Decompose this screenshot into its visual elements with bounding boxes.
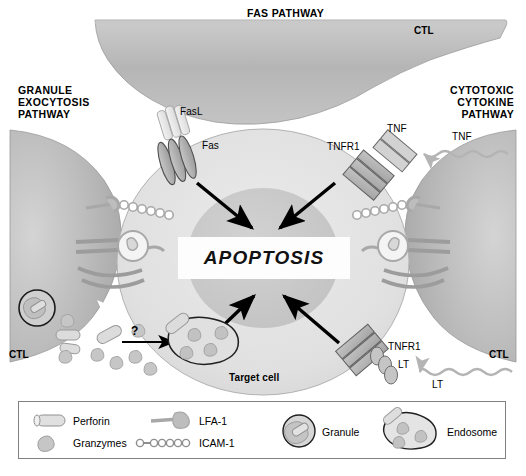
label-tnf-ligand-top: TNF [387, 123, 407, 134]
lfa1-rod-icon [151, 412, 189, 428]
granzyme-blob-icon [38, 436, 54, 452]
legend-box: Perforin Granzymes LFA-1 ICAM-1 Granule … [18, 401, 506, 459]
heading-fas-pathway: FAS PATHWAY [247, 8, 324, 20]
icam1-beads-icon [136, 439, 189, 446]
legend-label-endosome: Endosome [447, 426, 497, 438]
label-ctl-top: CTL [414, 25, 434, 36]
label-target-cell: Target cell [229, 372, 279, 383]
legend-icons [19, 402, 507, 460]
heading-granule-exocytosis-pathway: GRANULE EXOCYTOSIS PATHWAY [18, 85, 90, 120]
label-lt-cytokine: LT [432, 379, 443, 390]
legend-label-perforin: Perforin [73, 415, 110, 427]
apoptosis-label: APOPTOSIS [204, 247, 324, 269]
figure-canvas: FAS PATHWAY GRANULE EXOCYTOSIS PATHWAY C… [0, 0, 526, 476]
legend-label-lfa1: LFA-1 [199, 415, 227, 427]
granule-in-ctl [19, 290, 55, 326]
label-ctl-right: CTL [489, 349, 509, 360]
perforin-cylinder-icon [34, 415, 65, 426]
label-tnfr1-top: TNFR1 [327, 141, 360, 152]
legend-label-granule: Granule [322, 426, 359, 438]
label-ctl-left: CTL [9, 349, 29, 360]
legend-label-icam1: ICAM-1 [199, 437, 235, 449]
label-fas: Fas [202, 140, 219, 151]
heading-cytotoxic-cytokine-pathway: CYTOTOXIC CYTOKINE PATHWAY [450, 85, 514, 120]
label-tnfr1-bottom: TNFR1 [388, 341, 421, 352]
label-tnf-cytokine: TNF [452, 131, 472, 142]
label-lt-receptor: LT [398, 359, 409, 370]
legend-label-granzymes: Granzymes [73, 437, 127, 449]
apoptosis-label-container: APOPTOSIS [178, 237, 350, 279]
label-question-mark: ? [131, 325, 138, 338]
label-fasl: FasL [180, 106, 203, 117]
granule-circle-icon [283, 415, 315, 447]
endosome-oval-icon [382, 406, 436, 449]
